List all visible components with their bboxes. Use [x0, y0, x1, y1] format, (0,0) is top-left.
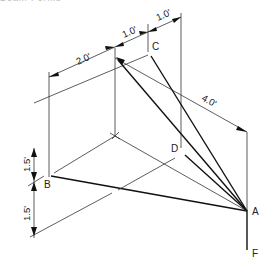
- dim-label-diagonal: 4.0': [200, 92, 219, 109]
- arrow-head: [115, 42, 124, 47]
- member-AB: [51, 176, 247, 211]
- dim-label-top-left: 2.0': [74, 50, 92, 66]
- member-AC: [151, 56, 247, 211]
- label-D: D: [171, 143, 178, 154]
- isometric-force-diagram: C D B A F 1.0' 1.0' 2.0' 4.0' 1.5' 1.5': [0, 0, 273, 267]
- arrow-head: [49, 72, 59, 77]
- arrow-head: [148, 27, 157, 32]
- dim-label-vertical-lower: 1.5': [21, 206, 32, 221]
- dim-label-top-right-2: 1.0': [154, 6, 172, 22]
- floor-line-segment: [30, 193, 112, 237]
- arrow-head: [31, 148, 37, 157]
- arrow-head: [31, 227, 37, 236]
- member-A-apex: [118, 60, 247, 211]
- label-A: A: [252, 206, 259, 217]
- member-AD: [185, 155, 247, 211]
- dim-tick: [28, 176, 44, 186]
- dim-label-vertical-upper: 1.5': [21, 157, 32, 172]
- arrow-head: [31, 172, 37, 181]
- box-edge-top-left: [34, 55, 148, 103]
- label-F: F: [252, 248, 258, 259]
- arrow-head: [236, 126, 247, 132]
- floor-line-segment: [118, 158, 175, 190]
- box-edge-base-left: [54, 136, 115, 173]
- label-C: C: [152, 41, 159, 52]
- label-B: B: [44, 179, 51, 190]
- arrow-head: [172, 17, 181, 23]
